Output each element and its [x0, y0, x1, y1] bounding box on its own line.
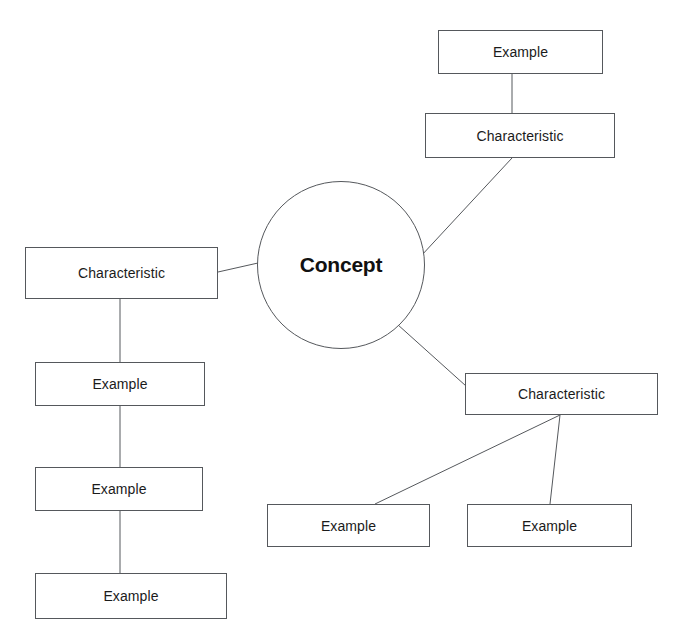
node-characteristic-left-label: Characteristic	[78, 265, 165, 281]
node-example-right-2[interactable]: Example	[467, 504, 632, 547]
node-example-top[interactable]: Example	[438, 30, 603, 74]
node-characteristic-right-label: Characteristic	[518, 386, 605, 402]
edge-characteristic-right-to-example-right-2	[550, 415, 560, 504]
edge-characteristic-right-to-example-right-1	[375, 415, 560, 504]
node-concept-label: Concept	[300, 253, 383, 277]
node-characteristic-top-label: Characteristic	[477, 128, 564, 144]
node-example-left-3-label: Example	[103, 588, 158, 604]
node-example-right-1-label: Example	[321, 518, 376, 534]
edge-concept-to-characteristic-right	[397, 324, 466, 386]
node-example-left-2[interactable]: Example	[35, 467, 203, 511]
node-example-left-1[interactable]: Example	[35, 362, 205, 406]
node-characteristic-top[interactable]: Characteristic	[425, 113, 615, 158]
node-example-right-1[interactable]: Example	[267, 504, 430, 547]
node-example-left-2-label: Example	[91, 481, 146, 497]
edge-characteristic-top-to-concept	[421, 158, 512, 256]
node-concept[interactable]: Concept	[257, 181, 425, 349]
node-characteristic-right[interactable]: Characteristic	[465, 373, 658, 415]
node-example-right-2-label: Example	[522, 518, 577, 534]
node-characteristic-left[interactable]: Characteristic	[25, 247, 218, 299]
concept-map-diagram: Concept Example Characteristic Character…	[0, 0, 681, 638]
node-example-left-3[interactable]: Example	[35, 573, 227, 619]
node-example-top-label: Example	[493, 44, 548, 60]
node-example-left-1-label: Example	[92, 376, 147, 392]
edge-concept-to-characteristic-left	[218, 263, 258, 272]
